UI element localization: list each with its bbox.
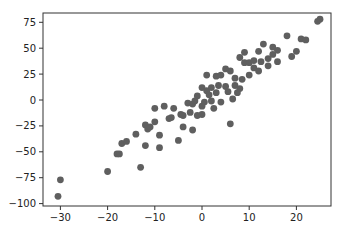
data-point	[187, 109, 194, 116]
x-tick-label: 0	[199, 212, 205, 223]
data-point	[175, 137, 182, 144]
data-point	[232, 75, 239, 82]
data-point	[123, 138, 130, 145]
data-point	[57, 176, 64, 183]
data-point	[151, 118, 158, 125]
data-point	[104, 168, 111, 175]
data-point	[189, 127, 196, 134]
data-point	[255, 68, 262, 75]
y-tick-label: 75	[23, 17, 36, 28]
x-tick-label: 10	[243, 212, 256, 223]
data-point	[241, 49, 248, 56]
data-point	[227, 120, 234, 127]
data-point	[168, 114, 175, 121]
data-point	[55, 193, 62, 200]
data-point	[147, 124, 154, 131]
y-tick-label: −100	[9, 198, 36, 209]
data-point	[203, 72, 210, 79]
data-point	[156, 144, 163, 151]
y-tick-label: −50	[15, 146, 36, 157]
scatter-chart: −30−20−1001020 7550250−25−50−75−100	[0, 0, 341, 239]
data-point	[218, 99, 225, 106]
data-point	[236, 85, 243, 92]
data-point	[246, 72, 253, 79]
data-point	[170, 105, 177, 112]
data-point	[317, 16, 324, 23]
data-point	[194, 93, 201, 100]
x-axis-ticks: −30−20−1001020	[50, 206, 303, 223]
data-point	[180, 112, 187, 119]
x-tick-label: −30	[50, 212, 71, 223]
data-point	[302, 37, 309, 44]
data-point	[208, 84, 215, 91]
data-point	[133, 131, 140, 138]
data-point	[116, 151, 123, 158]
data-point	[239, 76, 246, 83]
y-tick-label: 25	[23, 69, 36, 80]
data-point	[225, 88, 232, 95]
data-point	[274, 58, 281, 65]
y-tick-label: 50	[23, 43, 36, 54]
data-point	[274, 47, 281, 54]
data-point	[293, 48, 300, 55]
data-point	[265, 62, 272, 69]
data-point	[284, 32, 291, 39]
data-point	[229, 96, 236, 103]
y-tick-label: −75	[15, 172, 36, 183]
y-axis-ticks: 7550250−25−50−75−100	[9, 17, 43, 209]
data-point	[208, 98, 215, 105]
data-point	[151, 105, 158, 112]
data-point	[156, 132, 163, 139]
data-point	[255, 48, 262, 55]
data-point	[236, 54, 243, 61]
data-point	[199, 111, 206, 118]
y-tick-label: 0	[30, 95, 36, 106]
data-point	[227, 68, 234, 75]
data-point	[180, 124, 187, 131]
data-point	[161, 103, 168, 110]
data-point	[215, 82, 222, 89]
data-point	[142, 142, 149, 149]
data-point	[201, 99, 208, 106]
x-tick-label: −10	[144, 212, 165, 223]
data-point	[251, 57, 258, 64]
data-point	[213, 89, 220, 96]
x-tick-label: 20	[290, 212, 303, 223]
data-point	[260, 41, 267, 48]
data-point	[137, 164, 144, 171]
y-tick-label: −25	[15, 120, 36, 131]
data-point	[288, 53, 295, 60]
x-tick-label: −20	[97, 212, 118, 223]
data-point	[210, 105, 217, 112]
data-point	[258, 58, 265, 65]
plot-frame	[43, 13, 331, 206]
data-points	[55, 16, 324, 200]
data-point	[206, 91, 213, 98]
data-point	[218, 72, 225, 79]
